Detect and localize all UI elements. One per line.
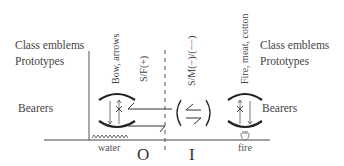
right-class-emblems-label: Class emblems <box>260 40 329 52</box>
sf-exchange-label: S/F(+) <box>139 56 149 82</box>
left-emblem-label: Bow, arrows <box>111 34 121 84</box>
left-bearer-emblem <box>99 94 135 127</box>
left-class-emblems-label: Class emblems <box>15 40 84 52</box>
inside-label: I <box>189 146 195 163</box>
diagram-canvas <box>0 0 344 166</box>
fire-icon <box>241 131 249 140</box>
sm-exchange-label: S/M(−)/(−−) <box>187 36 197 86</box>
right-bearer-emblem <box>228 94 262 127</box>
left-bearers-label: Bearers <box>18 103 53 115</box>
fire-label: fire <box>238 143 252 153</box>
right-emblem-label: Fire, meat, cotton <box>240 13 250 84</box>
outside-label: O <box>137 146 149 163</box>
inside-exchange-arrows <box>177 100 210 126</box>
right-bearers-label: Bearers <box>262 103 297 115</box>
water-label: water <box>98 143 120 153</box>
right-prototypes-label: Prototypes <box>260 56 309 68</box>
left-prototypes-label: Prototypes <box>15 56 64 68</box>
water-icon <box>92 135 128 138</box>
